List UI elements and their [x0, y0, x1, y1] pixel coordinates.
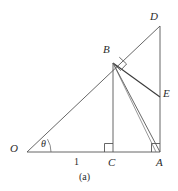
angle-arc-theta	[48, 139, 52, 152]
vertex-label-D: D	[150, 11, 158, 22]
figure-caption: (a)	[79, 172, 90, 182]
segment-length-label-1: 1	[74, 157, 79, 167]
vertex-label-A: A	[156, 157, 163, 168]
segment-BA	[113, 63, 160, 152]
vertex-label-C: C	[108, 157, 115, 168]
geometry-diagram-canvas	[0, 0, 178, 191]
vertex-label-B: B	[103, 44, 110, 55]
segment-OD	[27, 26, 160, 152]
vertex-label-O: O	[10, 143, 18, 154]
segment-BE	[113, 63, 160, 97]
vertex-label-E: E	[163, 88, 170, 99]
geometry-figure: O θ 1 C A B D E (a)	[0, 0, 178, 191]
angle-label-theta: θ	[41, 139, 46, 149]
segment-B-to-A-inner	[113, 63, 156, 152]
right-angle-marker-C	[105, 144, 114, 153]
